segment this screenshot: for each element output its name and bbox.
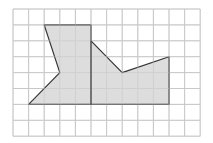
grid-overlay xyxy=(13,9,200,136)
grid-diagram xyxy=(0,0,213,143)
shaded-polygon xyxy=(29,25,169,105)
